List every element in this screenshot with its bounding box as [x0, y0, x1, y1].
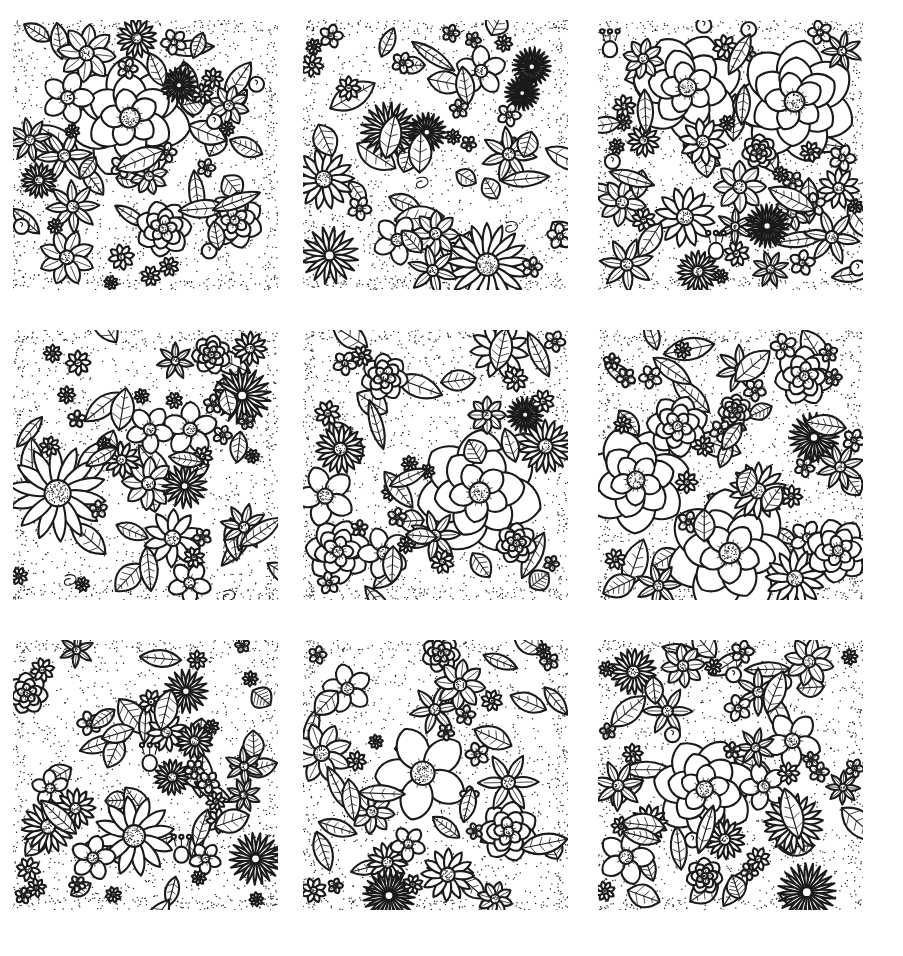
tile-grid	[0, 0, 903, 956]
flower-layer	[13, 640, 278, 906]
tile-artwork	[303, 640, 568, 910]
tile-artwork	[303, 20, 568, 290]
tile-artwork	[598, 20, 863, 290]
tile-artwork	[13, 20, 278, 290]
pattern-tile-4	[0, 310, 290, 620]
tile-artwork	[598, 640, 863, 910]
pattern-tile-6	[580, 310, 880, 620]
tile-artwork	[598, 330, 863, 600]
tile-artwork	[13, 330, 278, 600]
pattern-tile-8	[290, 620, 580, 930]
flower-layer	[303, 640, 557, 910]
pattern-tile-2	[290, 0, 580, 310]
flower-layer	[303, 330, 568, 593]
pattern-tile-9	[580, 620, 880, 930]
pattern-tile-5	[290, 310, 580, 620]
pattern-tile-7	[0, 620, 290, 930]
tile-artwork	[303, 330, 568, 600]
pattern-tile-1	[0, 0, 290, 310]
pattern-tile-3	[580, 0, 880, 310]
pattern-sheet	[0, 0, 903, 956]
tile-artwork	[13, 640, 278, 910]
